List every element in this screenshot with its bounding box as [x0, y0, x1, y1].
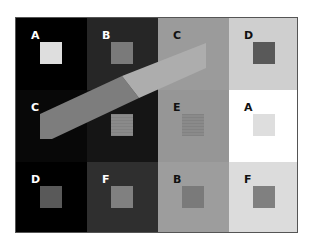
- bar-light-segment: [122, 43, 206, 98]
- illusion-figure: ABCDCEEADFBF: [15, 17, 298, 233]
- diagonal-bar: [16, 18, 298, 233]
- bar-dark-segment: [40, 76, 139, 139]
